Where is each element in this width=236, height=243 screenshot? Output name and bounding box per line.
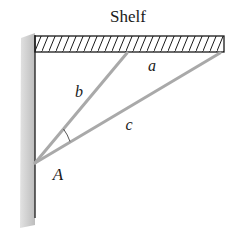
wall bbox=[20, 33, 35, 228]
shelf-label: Shelf bbox=[110, 7, 146, 26]
side-b-label: b bbox=[75, 83, 83, 100]
strut-b bbox=[35, 53, 127, 163]
shelf-board bbox=[35, 36, 224, 52]
side-a-label: a bbox=[148, 57, 156, 74]
shelf-bracket-diagram: Shelf a b c A bbox=[0, 0, 236, 243]
strut-c bbox=[35, 53, 220, 163]
side-c-label: c bbox=[125, 116, 132, 133]
wall-surface bbox=[20, 33, 35, 228]
angle-A-arc bbox=[64, 129, 71, 142]
shelf bbox=[35, 36, 224, 52]
vertex-A-label: A bbox=[52, 165, 64, 184]
